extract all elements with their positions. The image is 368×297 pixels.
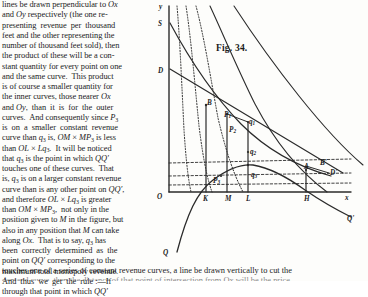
- point-label-P1: P1: [224, 112, 231, 119]
- dashed-horizontal-q3: [169, 173, 351, 176]
- total-revenue-curve-QQ: [177, 165, 351, 252]
- origin-label-O: O: [157, 194, 162, 201]
- text-line: number of thousand feet sold), then: [2, 41, 158, 51]
- text-line: point on QQ′ corresponding to the: [2, 256, 158, 266]
- constant-revenue-curve-5: [234, 6, 363, 165]
- text-line: is on a smaller constant revenue: [2, 123, 158, 133]
- text-line: lines be drawn perpendicular to Ox: [2, 0, 158, 10]
- text-line: than OM × MP3, not only in the: [2, 205, 158, 215]
- point-label-A: A: [304, 164, 309, 171]
- point-label-B-prime: B': [320, 160, 327, 167]
- text-line: curve than is any other point on QQ′,: [2, 185, 158, 195]
- marker-q2: [247, 151, 249, 153]
- x-axis-label: x: [345, 195, 349, 202]
- y-axis-label: y: [159, 4, 162, 11]
- text-line: presenting revenue per thousand: [2, 21, 158, 31]
- paragraph-main: lines be drawn perpendicular to Ox and O…: [2, 0, 158, 297]
- text-line: the inner curves, those nearer Ox: [2, 92, 158, 102]
- point-label-P2: P2: [229, 127, 236, 134]
- curve-label-Q: Q: [163, 250, 168, 257]
- text-line: and Oy respectively (the one re-: [2, 10, 158, 20]
- text-line: the product of these will be a con-: [2, 51, 158, 61]
- point-label-q3: q3: [251, 172, 257, 179]
- text-line: curve than q3 is, OM × MP3 is less: [2, 133, 158, 143]
- point-label-q1: q1: [249, 119, 255, 126]
- text-line: is, q3 is on a larger constant revenue: [2, 174, 158, 184]
- text-line: curves. And consequently since P3: [2, 113, 158, 123]
- x-tick-label-K: K: [203, 196, 208, 203]
- text-line: and the same curve. This product: [2, 72, 158, 82]
- text-line: through that point in which QQ′: [2, 287, 158, 297]
- demand-curve-DD: [170, 69, 343, 173]
- constant-revenue-curve-1: [177, 6, 191, 192]
- text-line: and Oy, than it is for the outer: [2, 103, 158, 113]
- figure-34: Fig. 34.: [155, 0, 368, 281]
- curve-label-Q-prime: Q': [347, 216, 354, 223]
- marker-P3: [220, 175, 222, 177]
- text-line: along Ox. That is to say, q3 has: [2, 236, 158, 246]
- x-tick-label-L: L: [246, 196, 250, 203]
- text-line: touches one of these curves. That: [2, 164, 158, 174]
- text-line: than OL × Lq3. It will be noticed: [2, 144, 158, 154]
- text-line: position given to M in the figure, but: [2, 215, 158, 225]
- figure-svg: [155, 0, 368, 281]
- text-line: and therefore OL × Lq3 is greater: [2, 195, 158, 205]
- text-line: also in any position that M can take: [2, 226, 158, 236]
- point-label-P3: P3: [213, 178, 220, 185]
- body-text-column: lines be drawn perpendicular to Ox and O…: [2, 0, 158, 297]
- demand-curve-label-D: D: [158, 68, 163, 75]
- text-line: is of course a smaller quantity for: [2, 82, 158, 92]
- point-label-q2: q2: [250, 149, 256, 156]
- text-line: feet and the other representing the: [2, 31, 158, 41]
- supply-curve-label-S: S: [158, 21, 162, 28]
- point-label-B: B: [207, 100, 212, 107]
- text-line: been correctly determined as the: [2, 246, 158, 256]
- x-tick-label-M: M: [225, 196, 231, 203]
- point-label-D-prime: D': [330, 170, 337, 177]
- x-tick-label-H: H: [304, 196, 310, 203]
- marker-q3: [247, 164, 249, 166]
- dashed-horizontal-low: [169, 183, 351, 185]
- text-line: that q3 is the point in which QQ′: [2, 154, 158, 164]
- text-line: stant quantity for every point on one: [2, 62, 158, 72]
